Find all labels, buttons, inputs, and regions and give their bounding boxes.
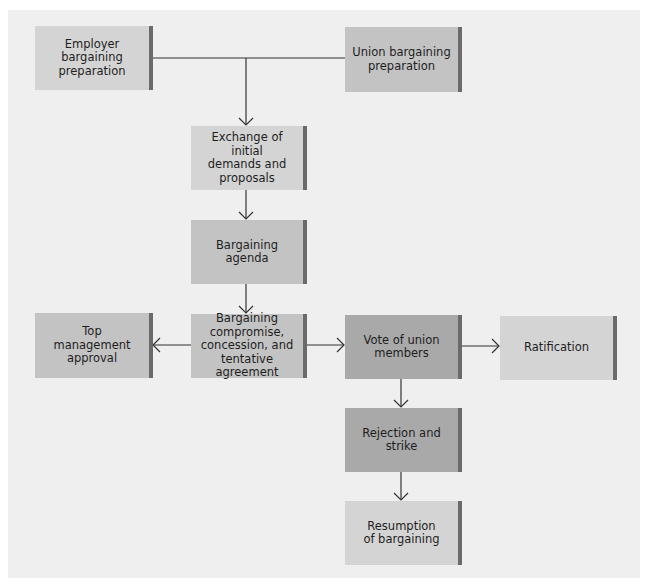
node-top-management-approval: Top management approval [35, 313, 153, 378]
node-label: Union bargaining preparation [352, 46, 450, 73]
node-label: Employer bargaining preparation [58, 38, 125, 79]
node-exchange-demands: Exchange of initial demands and proposal… [191, 126, 307, 190]
node-label: Bargaining agenda [216, 239, 278, 266]
node-ratification: Ratification [500, 316, 617, 380]
node-label: Resumption of bargaining [363, 520, 439, 547]
node-union-preparation: Union bargaining preparation [345, 27, 462, 92]
node-label: Bargaining compromise, concession, and t… [197, 312, 297, 380]
node-label: Rejection and strike [362, 427, 440, 454]
node-label: Top management approval [53, 325, 130, 366]
node-bargaining-compromise: Bargaining compromise, concession, and t… [191, 314, 307, 378]
node-label: Vote of union members [363, 334, 439, 361]
node-rejection-strike: Rejection and strike [345, 408, 462, 472]
node-label: Exchange of initial demands and proposal… [197, 131, 297, 185]
node-vote-union-members: Vote of union members [345, 315, 462, 379]
node-employer-preparation: Employer bargaining preparation [35, 26, 153, 90]
node-label: Ratification [524, 341, 589, 355]
node-bargaining-agenda: Bargaining agenda [191, 220, 307, 284]
node-resumption-bargaining: Resumption of bargaining [345, 501, 462, 565]
